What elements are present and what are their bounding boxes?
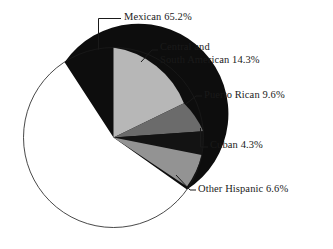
pie-label-cuban-line1: Cuban 4.3% [210,139,263,152]
pie-label-cuban: Cuban 4.3% [210,139,263,152]
pie-label-central-south-american-line2: South American 14.3% [160,54,260,67]
pie-chart: Mexican 65.2% Central and South American… [0,0,333,249]
pie-label-puerto-rican: Puerto Rican 9.6% [204,89,285,102]
pie-label-mexican-line1: Mexican 65.2% [124,11,192,24]
pie-label-mexican: Mexican 65.2% [124,11,192,24]
pie-label-central-south-american-line1: Central and [160,41,260,54]
pie-label-puerto-rican-line1: Puerto Rican 9.6% [204,89,285,102]
pie-label-other-hispanic: Other Hispanic 6.6% [198,183,288,196]
pie-label-central-south-american: Central and South American 14.3% [160,41,260,66]
pie-label-other-hispanic-line1: Other Hispanic 6.6% [198,183,288,196]
pie-chart-graphic [0,0,333,249]
